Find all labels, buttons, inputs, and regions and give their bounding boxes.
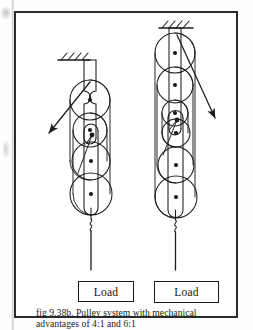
ceiling-support-left <box>58 53 90 60</box>
load-label-right: Load <box>174 286 198 298</box>
pulley-diagram <box>16 13 236 316</box>
ceiling-support-right <box>159 21 193 28</box>
pulley-left-lower-1 <box>72 142 110 180</box>
load-hook-left <box>90 219 92 270</box>
pulley-system-right-group <box>155 21 215 270</box>
load-hook-right <box>175 220 177 270</box>
caption-line-1: fig 9.38b. Pulley system with mechanical <box>36 307 236 318</box>
figure-frame: Load Load fig 9.38b. Pulley system with … <box>14 11 238 318</box>
scan-artifact-left <box>2 140 10 158</box>
figure-page: Load Load fig 9.38b. Pulley system with … <box>0 0 253 330</box>
pulley-right-lower-2 <box>158 147 194 183</box>
load-box-right: Load <box>154 281 219 303</box>
load-label-left: Load <box>94 286 118 298</box>
effort-arrow-right <box>177 35 215 118</box>
load-box-left: Load <box>78 281 134 302</box>
caption-line-2: advantages of 4:1 and 6:1 <box>36 318 236 329</box>
pulley-system-left-group <box>49 53 112 270</box>
figure-caption: fig 9.38b. Pulley system with mechanical… <box>36 307 236 330</box>
